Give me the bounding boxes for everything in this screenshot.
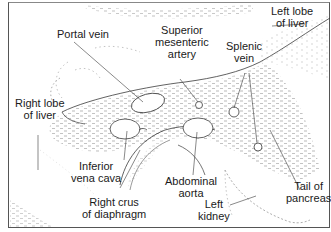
label-right-crus-of-diaphragm: Right crus of diaphragm [82, 196, 146, 220]
liver-top-texture [85, 4, 255, 18]
label-inferior-vena-cava: Inferior vena cava [71, 160, 121, 184]
aorta-shape [183, 118, 213, 138]
label-superior-mesenteric-artery: Superior mesenteric artery [155, 24, 209, 60]
label-right-lobe-of-liver: Right lobe of liver [15, 97, 65, 121]
label-splenic-vein: Splenic vein [226, 40, 262, 64]
label-portal-vein: Portal vein [57, 28, 109, 40]
label-abdominal-aorta: Abdominal aorta [165, 175, 217, 199]
small-vessel-shape [254, 143, 262, 151]
splenic-vein-shape [229, 107, 239, 117]
sma-shape [196, 102, 203, 109]
label-left-kidney: Left kidney [198, 198, 230, 222]
label-left-lobe-of-liver: Left lobe of liver [271, 5, 313, 29]
ivc-shape [110, 119, 140, 139]
label-tail-of-pancreas: Tail of pancreas [286, 180, 331, 204]
